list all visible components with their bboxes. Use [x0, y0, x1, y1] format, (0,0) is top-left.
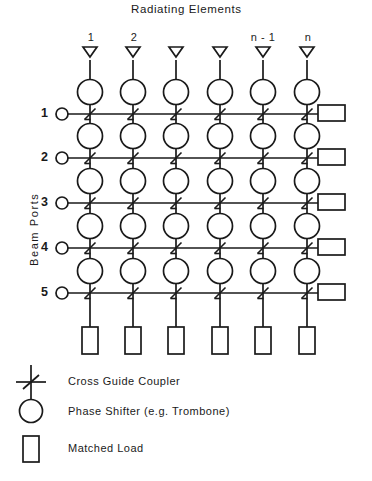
phase-shifter	[121, 214, 146, 239]
matched-load-bottom	[125, 327, 141, 354]
phase-shifter	[78, 80, 103, 105]
beam-port-rows	[68, 114, 318, 293]
phase-shifter	[78, 259, 103, 284]
matched-load-bottom	[82, 327, 98, 354]
antenna-icon	[213, 47, 227, 57]
phase-shifter	[251, 214, 276, 239]
beam-port-terminal-group	[56, 108, 68, 299]
matched-load-right	[318, 239, 345, 255]
beam-port-terminal	[56, 152, 68, 164]
phase-shifter	[164, 214, 189, 239]
phase-shifter	[208, 169, 233, 194]
phase-shifter	[208, 214, 233, 239]
phase-shifter	[208, 124, 233, 149]
matched-load-right	[318, 149, 345, 165]
legend-label-phase-shifter: Phase Shifter (e.g. Trombone)	[68, 405, 230, 417]
antenna-group	[83, 47, 314, 57]
matched-load-bottom	[255, 327, 271, 354]
matched-load-right	[318, 284, 345, 300]
phase-shifter	[251, 169, 276, 194]
beam-port-terminal	[56, 242, 68, 254]
legend-coupler-icon	[16, 365, 46, 399]
phase-shifter-group	[78, 80, 320, 284]
beam-port-terminal	[56, 287, 68, 299]
matched-load-bottom	[212, 327, 228, 354]
antenna-icon	[256, 47, 270, 57]
legend-phase-shifter-icon	[20, 400, 43, 423]
phase-shifter	[251, 124, 276, 149]
matched-load-bottom	[168, 327, 184, 354]
beam-port-terminal	[56, 197, 68, 209]
phase-shifter	[78, 169, 103, 194]
phase-shifter	[164, 80, 189, 105]
phase-shifter	[78, 124, 103, 149]
phase-shifter	[208, 80, 233, 105]
phase-shifter	[121, 80, 146, 105]
phase-shifter	[164, 169, 189, 194]
phase-shifter	[78, 214, 103, 239]
legend-label-coupler: Cross Guide Coupler	[68, 375, 180, 387]
antenna-icon	[169, 47, 183, 57]
phase-shifter	[251, 80, 276, 105]
diagram-canvas: Radiating Elements Beam Ports 1 2 n - 1 …	[0, 0, 372, 481]
phase-shifter	[295, 214, 320, 239]
antenna-icon	[300, 47, 314, 57]
legend-label-matched-load: Matched Load	[68, 442, 144, 454]
phase-shifter	[295, 124, 320, 149]
beam-port-terminal	[56, 108, 68, 120]
phase-shifter	[251, 259, 276, 284]
legend-matched-load-icon	[23, 436, 39, 462]
phase-shifter	[295, 259, 320, 284]
antenna-icon	[126, 47, 140, 57]
phase-shifter	[164, 124, 189, 149]
bottom-matched-load-group	[82, 327, 315, 354]
matched-load-right	[318, 194, 345, 210]
phase-shifter	[121, 259, 146, 284]
antenna-icon	[83, 47, 97, 57]
matched-load-bottom	[299, 327, 315, 354]
phase-shifter	[295, 169, 320, 194]
phase-shifter	[208, 259, 233, 284]
matched-load-right	[318, 105, 345, 121]
phase-shifter	[121, 169, 146, 194]
phase-shifter	[164, 259, 189, 284]
phase-shifter	[121, 124, 146, 149]
phase-shifter	[295, 80, 320, 105]
right-matched-load-group	[318, 105, 345, 300]
